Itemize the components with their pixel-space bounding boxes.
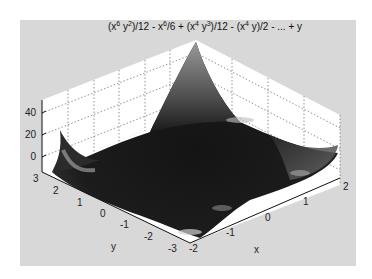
- y-axis-label: y: [111, 241, 116, 252]
- svg-text:-2: -2: [144, 231, 153, 242]
- svg-text:1: 1: [303, 196, 309, 207]
- svg-text:40: 40: [25, 107, 37, 118]
- chart-title: (x6 y2)/12 - x6/6 + (x4 y3)/12 - (x4 y)/…: [108, 20, 302, 32]
- svg-text:-3: -3: [168, 243, 177, 254]
- surface-plot: 40 20 0 3 2 1 0 -1 -2 -3 y -2 -1 0 1 2 x…: [0, 0, 372, 279]
- svg-text:0: 0: [100, 208, 106, 219]
- svg-text:2: 2: [53, 185, 59, 196]
- svg-text:0: 0: [30, 151, 36, 162]
- svg-text:20: 20: [25, 129, 37, 140]
- x-axis-label: x: [254, 244, 259, 255]
- svg-text:1: 1: [77, 197, 83, 208]
- svg-text:2: 2: [343, 181, 349, 192]
- svg-text:-1: -1: [226, 227, 235, 238]
- svg-text:-1: -1: [120, 219, 129, 230]
- svg-text:-2: -2: [189, 243, 198, 254]
- z-ticks: 40 20 0: [25, 107, 37, 162]
- svg-text:0: 0: [265, 212, 271, 223]
- svg-text:3: 3: [33, 173, 39, 184]
